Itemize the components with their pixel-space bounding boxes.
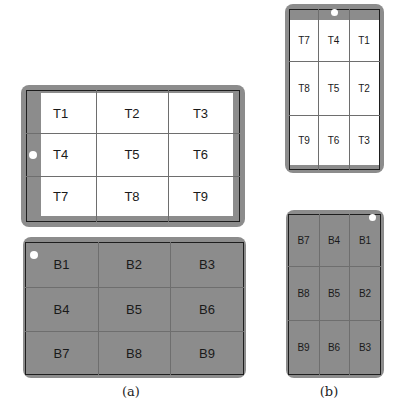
tile-cell: B1 (25, 242, 98, 287)
tile-cell: B8 (98, 331, 170, 375)
tile-cell: B6 (319, 320, 349, 375)
tile-grid: T7 T4 T1 T8 T5 T2 T9 T6 T3 (290, 20, 379, 165)
tile-cell: T8 (96, 176, 168, 216)
tile-cell: B7 (288, 214, 319, 266)
tile-cell: B6 (170, 287, 244, 331)
tile-cell: T6 (318, 115, 349, 165)
tile-cell: T4 (318, 20, 349, 61)
camera-dot-icon (30, 251, 38, 259)
tile-cell: T1 (41, 93, 96, 133)
tile-cell: B8 (288, 266, 319, 320)
camera-dot-icon (29, 151, 37, 159)
panel-a-caption: (a) (122, 384, 140, 399)
tile-grid: B7 B4 B1 B8 B5 B2 B9 B6 B3 (288, 214, 381, 375)
tile-cell: B7 (25, 331, 98, 375)
tile-cell: T3 (168, 93, 233, 133)
tile-cell: B4 (25, 287, 98, 331)
tile-cell: B3 (170, 242, 244, 287)
camera-dot-icon (331, 9, 338, 16)
tile-cell: T2 (349, 61, 379, 115)
tile-cell: B1 (349, 214, 381, 266)
tile-cell: T7 (41, 176, 96, 216)
tile-cell: T5 (318, 61, 349, 115)
tile-cell: T7 (290, 20, 318, 61)
tile-cell: B9 (288, 320, 319, 375)
tile-cell: T9 (168, 176, 233, 216)
tile-cell: T2 (96, 93, 168, 133)
tile-cell: T5 (96, 133, 168, 176)
tile-grid: T1 T2 T3 T4 T5 T6 T7 T8 T9 (41, 93, 233, 216)
tile-cell: B9 (170, 331, 244, 375)
camera-dot-icon (369, 214, 376, 221)
tile-cell: B4 (319, 214, 349, 266)
tile-cell: B2 (98, 242, 170, 287)
panel-b-caption: (b) (320, 384, 338, 399)
tile-cell: B5 (98, 287, 170, 331)
tile-cell: B3 (349, 320, 381, 375)
panel-b-bottom-device: B7 B4 B1 B8 B5 B2 B9 B6 B3 (286, 210, 384, 378)
panel-a-bottom-device: B1 B2 B3 B4 B5 B6 B7 B8 B9 (23, 237, 246, 378)
tile-cell: T1 (349, 20, 379, 61)
tile-cell: T4 (41, 133, 96, 176)
panel-b-top-device: T7 T4 T1 T8 T5 T2 T9 T6 T3 (285, 4, 384, 173)
tile-cell: B2 (349, 266, 381, 320)
tile-cell: T3 (349, 115, 379, 165)
tile-cell: T9 (290, 115, 318, 165)
panel-a-top-device: T1 T2 T3 T4 T5 T6 T7 T8 T9 (21, 85, 245, 227)
tile-cell: B5 (319, 266, 349, 320)
tile-cell: T6 (168, 133, 233, 176)
tile-grid: B1 B2 B3 B4 B5 B6 B7 B8 B9 (25, 242, 244, 375)
tile-cell: T8 (290, 61, 318, 115)
